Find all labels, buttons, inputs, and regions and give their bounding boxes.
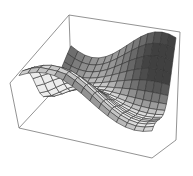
surface-plot <box>0 0 193 176</box>
surface-cell <box>154 114 164 117</box>
surface-cell <box>157 103 167 111</box>
surface-plot-canvas <box>0 0 193 176</box>
surface-cell <box>143 126 154 131</box>
box-edge-bottom-right <box>152 140 176 158</box>
box-edge-left-vertical <box>10 83 19 128</box>
surface-mesh <box>19 32 176 131</box>
box-edge-top-back <box>69 15 180 32</box>
surface-cell <box>155 110 165 115</box>
box-edge-bottom-front <box>19 128 152 158</box>
box-edge-right-vertical <box>176 32 180 140</box>
surface-cell <box>160 83 169 96</box>
surface-cell <box>159 94 168 104</box>
